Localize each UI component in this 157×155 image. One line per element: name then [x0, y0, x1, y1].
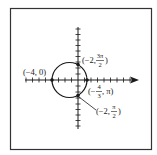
vertical-axis	[76, 27, 81, 129]
point-left-marker	[50, 78, 54, 82]
svg-text:, π): , π)	[102, 86, 114, 96]
svg-text:(−2,: (−2,	[96, 106, 110, 116]
point-top-marker	[76, 63, 80, 67]
svg-text:3π: 3π	[97, 52, 104, 59]
horizontal-axis	[25, 77, 139, 84]
svg-text:): )	[118, 106, 121, 116]
label-point-right: (− 4 3 , π)	[88, 83, 114, 100]
svg-text:2: 2	[112, 112, 115, 119]
point-right-marker	[85, 78, 89, 82]
svg-text:4: 4	[97, 83, 101, 90]
label-point-top: (−2, 3π 2 )	[82, 52, 108, 69]
polar-graph-figure: (−4, 0) (−2, 3π 2 ) (− 4 3 , π) (−2, π 2…	[0, 0, 157, 155]
label-point-left: (−4, 0)	[23, 67, 46, 77]
svg-text:): )	[105, 55, 108, 65]
svg-text:(−: (−	[88, 86, 96, 96]
svg-text:2: 2	[98, 61, 101, 68]
svg-text:3: 3	[97, 92, 100, 99]
label-point-bottom: (−2, π 2 )	[96, 103, 121, 120]
svg-text:(−2,: (−2,	[82, 55, 96, 65]
svg-text:π: π	[112, 103, 116, 110]
leader-line	[79, 97, 96, 110]
